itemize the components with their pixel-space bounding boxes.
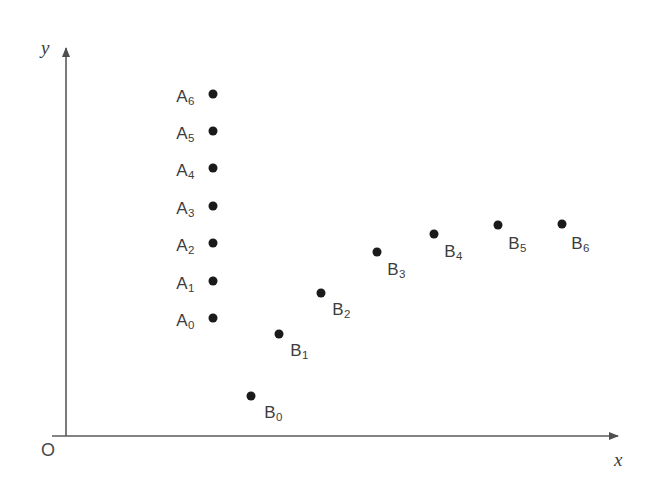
point-label-a3: A3 bbox=[176, 200, 194, 217]
data-point-b4 bbox=[430, 230, 439, 239]
point-label-b0: B0 bbox=[264, 404, 282, 421]
origin-label: O bbox=[41, 441, 55, 459]
scatter-diagram-figure: y x O A0A1A2A3A4A5A6B0B1B2B3B4B5B6 bbox=[0, 0, 666, 490]
data-point-b5 bbox=[494, 221, 503, 230]
data-point-b3 bbox=[373, 248, 382, 257]
point-label-a4: A4 bbox=[176, 162, 194, 179]
point-label-b3: B3 bbox=[387, 261, 405, 278]
point-label-b5: B5 bbox=[508, 235, 526, 252]
point-label-b4: B4 bbox=[444, 243, 462, 260]
y-axis-label: y bbox=[41, 38, 49, 57]
data-point-a6 bbox=[209, 90, 218, 99]
point-label-b6: B6 bbox=[571, 235, 589, 252]
data-point-b0 bbox=[247, 392, 256, 401]
point-label-a6: A6 bbox=[176, 88, 194, 105]
data-point-b2 bbox=[317, 289, 326, 298]
point-label-a5: A5 bbox=[176, 125, 194, 142]
point-label-a1: A1 bbox=[176, 275, 194, 292]
point-label-a2: A2 bbox=[176, 237, 194, 254]
data-point-b1 bbox=[275, 330, 284, 339]
data-point-a4 bbox=[209, 164, 218, 173]
data-point-a2 bbox=[209, 239, 218, 248]
point-label-a0: A0 bbox=[176, 312, 194, 329]
data-point-a3 bbox=[209, 202, 218, 211]
axes-group bbox=[0, 0, 666, 490]
data-point-a0 bbox=[209, 314, 218, 323]
point-label-b2: B2 bbox=[332, 301, 350, 318]
point-label-b1: B1 bbox=[290, 342, 308, 359]
data-point-b6 bbox=[558, 220, 567, 229]
data-point-a5 bbox=[209, 127, 218, 136]
x-axis-label: x bbox=[614, 450, 622, 469]
data-point-a1 bbox=[209, 277, 218, 286]
